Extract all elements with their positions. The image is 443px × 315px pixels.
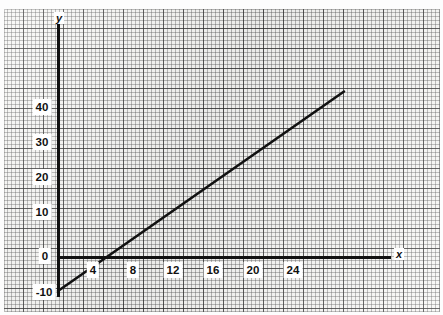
y-tick-label: -10 [33, 284, 56, 300]
y-axis-label: y [54, 12, 64, 24]
x-tick-label: 24 [284, 262, 303, 278]
y-tick-label: 40 [33, 99, 52, 115]
x-tick-label: 4 [87, 262, 99, 278]
y-tick-label: 30 [33, 134, 52, 150]
y-tick-label: 0 [39, 248, 51, 264]
y-axis-line [57, 16, 60, 297]
cropped-header-text [6, 0, 146, 6]
x-tick-label: 20 [244, 262, 263, 278]
x-axis-line [58, 256, 391, 259]
x-tick-label: 12 [164, 262, 183, 278]
x-axis-label: x [394, 248, 404, 260]
x-tick-label: 16 [204, 262, 223, 278]
x-tick-label: 8 [127, 262, 139, 278]
y-tick-label: 20 [33, 169, 52, 185]
graph-screenshot: y x 4812162024403020100-10 [0, 0, 443, 315]
y-tick-label: 10 [33, 204, 52, 220]
